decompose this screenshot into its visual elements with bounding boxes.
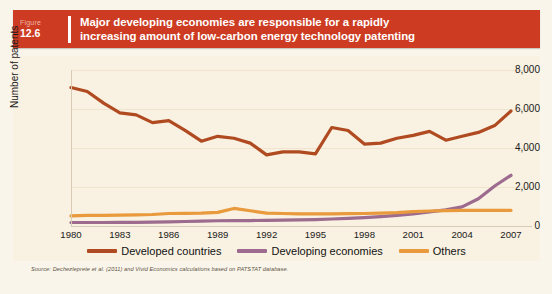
series-line — [71, 208, 511, 215]
chart-legend: Developed countriesDeveloping economiesO… — [13, 243, 540, 259]
series-line — [71, 88, 511, 155]
legend-item[interactable]: Others — [399, 245, 466, 257]
x-axis-tick-label: 1992 — [256, 229, 277, 240]
legend-swatch — [87, 249, 117, 253]
x-axis-tick-label: 1983 — [109, 229, 130, 240]
y-axis-line — [71, 70, 72, 227]
header-divider — [68, 16, 71, 43]
figure-number: 12.6 — [20, 28, 40, 39]
legend-label: Others — [433, 245, 466, 257]
x-axis-tick-labels: 1980198319861989199219951998200120042007 — [71, 229, 532, 243]
x-axis-tick-label: 1986 — [158, 229, 179, 240]
x-axis-line — [71, 226, 532, 227]
x-axis-tick-label: 2001 — [403, 229, 424, 240]
legend-label: Developed countries — [121, 245, 221, 257]
x-axis-tick-label: 2007 — [500, 229, 521, 240]
y-axis-tick-label: 8,000 — [488, 64, 540, 75]
x-axis-tick-label: 1998 — [354, 229, 375, 240]
y-axis-tick-label: 4,000 — [488, 142, 540, 153]
legend-item[interactable]: Developing economies — [237, 245, 382, 257]
legend-item[interactable]: Developed countries — [87, 245, 221, 257]
y-axis-title: Number of patents — [9, 26, 20, 108]
chart-panel: Number of patents 02,0004,0006,0008,000 … — [13, 56, 540, 261]
plot-area — [71, 70, 532, 226]
y-axis-tick-label: 6,000 — [488, 103, 540, 114]
legend-swatch — [399, 249, 429, 253]
x-axis-tick-label: 2004 — [451, 229, 472, 240]
figure-title-line-2: increasing amount of low-carbon energy t… — [80, 30, 415, 42]
x-axis-tick-label: 1989 — [207, 229, 228, 240]
x-axis-tick-label: 1980 — [60, 229, 81, 240]
figure-header-bar: Figure 12.6 Major developing economies a… — [13, 10, 540, 48]
figure-number-block: Figure 12.6 — [20, 19, 66, 39]
legend-label: Developing economies — [271, 245, 382, 257]
figure-title-line-1: Major developing economies are responsib… — [80, 16, 389, 28]
y-axis-tick-label: 2,000 — [488, 181, 540, 192]
chart-lines — [71, 70, 532, 226]
x-axis-tick-label: 1995 — [305, 229, 326, 240]
figure-title: Major developing economies are responsib… — [80, 15, 423, 43]
legend-swatch — [237, 249, 267, 253]
figure-label-word: Figure — [20, 19, 41, 26]
source-note: Source: Dechezleprete et al. (2011) and … — [31, 266, 531, 272]
